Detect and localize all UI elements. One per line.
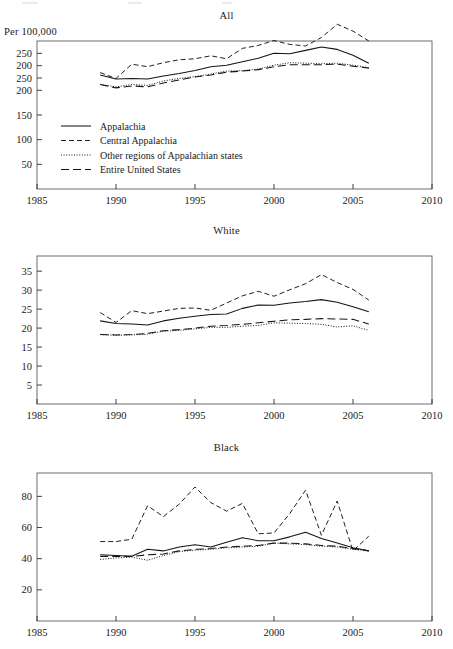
series-line xyxy=(100,47,369,79)
y-tick-label: 80 xyxy=(22,491,33,502)
x-tick-label: 2010 xyxy=(422,627,443,638)
series-line xyxy=(100,487,369,551)
x-tick-label: 1990 xyxy=(106,195,127,206)
series-line xyxy=(100,543,369,556)
x-tick-label: 2010 xyxy=(422,410,443,421)
y-tick-label: 20 xyxy=(22,584,33,595)
y-tick-label: 250 xyxy=(16,73,32,84)
chart-panel-black: Black 80604020198519901995200020052010 xyxy=(0,432,453,649)
x-tick-label: 2000 xyxy=(264,410,285,421)
x-tick-label: 2005 xyxy=(343,410,364,421)
x-tick-label: 1995 xyxy=(185,410,206,421)
y-tick-label: 200 xyxy=(16,85,32,96)
y-tick-label: 35 xyxy=(22,266,33,277)
x-tick-label: 2010 xyxy=(422,195,443,206)
y-tick-label: 100 xyxy=(16,134,32,145)
y-tick-label: 50 xyxy=(22,159,33,170)
x-tick-label: 1985 xyxy=(27,627,48,638)
x-tick-label: 1995 xyxy=(185,627,206,638)
x-tick-label: 1985 xyxy=(27,195,48,206)
figure-page: All Per 100,000 250200250200150100501985… xyxy=(0,0,453,649)
chart-plot-black: 80604020198519901995200020052010 xyxy=(0,432,453,649)
y-tick-label: 25 xyxy=(22,304,33,315)
y-tick-label: 15 xyxy=(22,342,33,353)
y-tick-label: 40 xyxy=(22,553,33,564)
legend-label: Central Appalachia xyxy=(100,135,177,146)
y-tick-label: 60 xyxy=(22,522,33,533)
series-line xyxy=(100,319,369,335)
x-tick-label: 2000 xyxy=(264,627,285,638)
series-line xyxy=(100,532,369,556)
x-tick-label: 1990 xyxy=(106,410,127,421)
y-tick-label: 250 xyxy=(16,48,32,59)
legend-label: Entire United States xyxy=(100,164,181,175)
y-tick-label: 200 xyxy=(16,60,32,71)
x-tick-label: 1990 xyxy=(106,627,127,638)
chart-panel-white: White 3530252015105198519901995200020052… xyxy=(0,215,453,430)
x-tick-label: 2005 xyxy=(343,195,364,206)
y-tick-label: 5 xyxy=(27,380,32,391)
series-line xyxy=(100,63,369,87)
x-tick-label: 1995 xyxy=(185,195,206,206)
chart-plot-all: 2502002502001501005019851990199520002005… xyxy=(0,0,453,215)
chart-panel-all: All Per 100,000 250200250200150100501985… xyxy=(0,0,453,215)
y-tick-label: 10 xyxy=(22,361,33,372)
x-tick-label: 1985 xyxy=(27,410,48,421)
series-line xyxy=(100,300,369,325)
legend-label: Appalachia xyxy=(100,121,146,132)
series-line xyxy=(100,275,369,323)
series-line xyxy=(100,64,369,88)
x-tick-label: 2000 xyxy=(264,195,285,206)
chart-plot-white: 3530252015105198519901995200020052010 xyxy=(0,215,453,430)
y-tick-label: 20 xyxy=(22,323,33,334)
legend-label: Other regions of Appalachian states xyxy=(100,150,243,161)
y-tick-label: 150 xyxy=(16,110,32,121)
x-tick-label: 2005 xyxy=(343,627,364,638)
y-tick-label: 30 xyxy=(22,285,33,296)
